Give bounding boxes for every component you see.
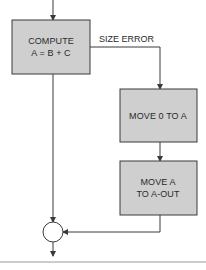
size-error-connector — [90, 47, 160, 89]
move-out-box: MOVE A TO A-OUT — [120, 161, 197, 215]
move-zero-label: MOVE 0 TO A — [129, 111, 187, 121]
compute-box: COMPUTE A = B + C — [12, 20, 90, 74]
compute-label-line1: COMPUTE — [28, 36, 74, 46]
move-zero-box: MOVE 0 TO A — [120, 89, 197, 142]
move-out-label-line2: TO A-OUT — [136, 189, 180, 199]
flowchart: COMPUTE A = B + C SIZE ERROR MOVE 0 TO A… — [0, 0, 206, 270]
move-out-to-connector-line — [63, 215, 160, 232]
move-out-label-line1: MOVE A — [140, 177, 175, 187]
compute-label-line2: A = B + C — [31, 48, 71, 58]
connector-circle — [43, 222, 63, 242]
size-error-label: SIZE ERROR — [99, 34, 155, 44]
